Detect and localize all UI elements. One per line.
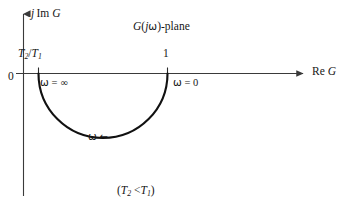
imaginary-axis-im: Im: [37, 7, 50, 19]
real-axis-re: Re: [312, 65, 325, 77]
t2t1-denominator-sub: 1: [38, 52, 42, 61]
annotation-time-constant-condition: (T2 <T1): [117, 185, 155, 198]
omega-zero-equals: =: [184, 77, 190, 88]
omega-inf-equals: =: [51, 77, 57, 88]
plane-label: G(jω)-plane: [133, 21, 190, 33]
omega-inf-value: ∞: [60, 77, 68, 88]
omega-zero-symbol: ω: [173, 76, 182, 88]
condition-close-paren: ): [151, 184, 155, 196]
annotation-omega-zero: ω = 0: [173, 77, 198, 89]
plane-label-omega: ω: [148, 20, 157, 32]
imaginary-axis-label: j Im G: [31, 8, 60, 20]
imaginary-axis-g: G: [52, 7, 60, 19]
annotation-omega-direction: ω ←: [88, 131, 108, 143]
tick-label-t2-over-t1: T2/T1: [18, 48, 42, 61]
plane-label-suffix: -plane: [161, 20, 190, 32]
left-arrow-icon: ←: [99, 131, 107, 142]
omega-zero-value: 0: [193, 77, 198, 88]
condition-t2-sub: 2: [127, 189, 131, 198]
annotation-omega-infinity: ω = ∞: [40, 77, 68, 89]
nyquist-plot-figure: j Im G G(jω)-plane Re G 0 T2/T1 1 ω = ∞ …: [0, 0, 351, 212]
origin-label: 0: [8, 71, 14, 83]
real-axis-g: G: [328, 65, 336, 77]
tick-label-one: 1: [163, 48, 169, 60]
omega-inf-symbol: ω: [40, 76, 49, 88]
omega-direction-symbol: ω: [88, 130, 97, 142]
real-axis-label: Re G: [312, 66, 336, 78]
